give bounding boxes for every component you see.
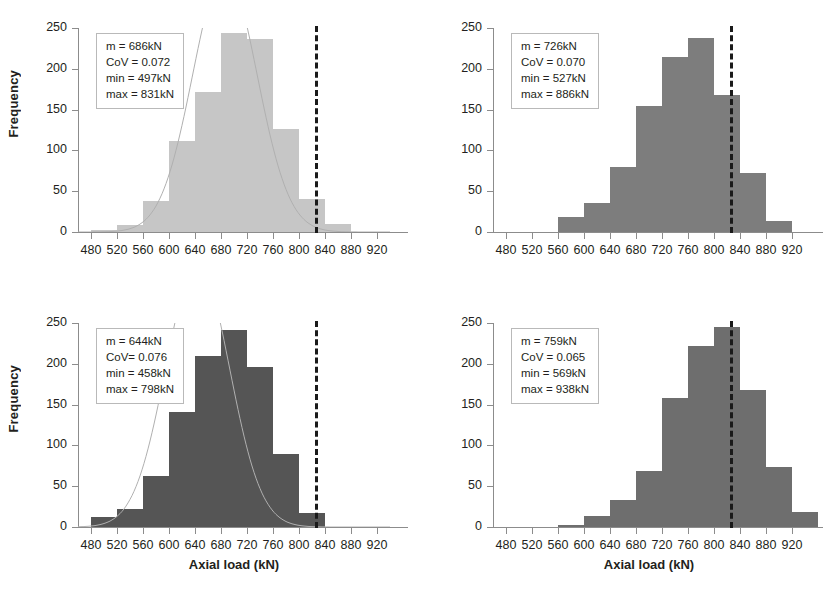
x-tick	[273, 528, 274, 534]
y-tick-label: 250	[46, 20, 72, 34]
x-tick	[688, 528, 689, 534]
x-tick-label: 880	[756, 243, 777, 257]
x-tick	[610, 233, 611, 239]
x-tick	[273, 233, 274, 239]
x-tick-label: 600	[574, 243, 595, 257]
x-tick	[221, 528, 222, 534]
y-tick-label: 250	[461, 20, 487, 34]
stat-mean: m = 686kN	[106, 39, 174, 55]
histogram-bar	[299, 513, 325, 527]
x-tick-label: 640	[185, 243, 206, 257]
x-tick-label: 920	[367, 538, 388, 552]
x-tick-label: 480	[81, 538, 102, 552]
stats-box: m = 759kN CoV = 0.065 min = 569kN max = …	[511, 328, 599, 404]
stat-mean: m = 726kN	[521, 39, 589, 55]
y-tick-label: 50	[468, 183, 487, 197]
y-tick-label: 0	[60, 224, 72, 238]
histogram-bar	[221, 330, 247, 527]
x-axis-title: Axial load (kN)	[78, 557, 390, 572]
histogram-bar	[714, 327, 740, 527]
x-tick-label: 600	[159, 243, 180, 257]
x-tick	[558, 528, 559, 534]
chart-panel-bottom-right: 050100150200250 m = 759kN CoV = 0.065 mi…	[415, 295, 829, 589]
y-tick-label: 100	[46, 142, 72, 156]
x-tick	[299, 233, 300, 239]
histogram-bar	[299, 199, 325, 232]
histogram-figure: Frequency 050100150200250 m = 686kN CoV …	[0, 0, 829, 589]
y-tick-label: 200	[461, 61, 487, 75]
y-tick-label: 200	[461, 356, 487, 370]
x-tick-label: 840	[315, 243, 336, 257]
stat-cov: CoV = 0.065	[521, 350, 589, 366]
x-tick-label: 640	[185, 538, 206, 552]
histogram-bar	[117, 225, 143, 232]
y-tick-label: 50	[53, 183, 72, 197]
x-tick	[558, 233, 559, 239]
x-tick	[740, 528, 741, 534]
x-tick	[662, 233, 663, 239]
x-tick-label: 880	[341, 243, 362, 257]
x-tick-label: 520	[522, 538, 543, 552]
histogram-bar	[688, 38, 714, 232]
x-tick	[325, 233, 326, 239]
y-tick-label: 50	[468, 478, 487, 492]
histogram-bar	[169, 141, 195, 232]
stat-cov: CoV = 0.070	[521, 55, 589, 71]
y-tick-label: 0	[60, 519, 72, 533]
x-tick-label: 520	[522, 243, 543, 257]
stat-max: max = 831kN	[106, 87, 174, 103]
stat-max: max = 798kN	[106, 382, 174, 398]
x-tick	[351, 528, 352, 534]
x-tick-label: 880	[341, 538, 362, 552]
x-tick-label: 720	[237, 243, 258, 257]
histogram-bar	[740, 173, 766, 232]
histogram-bar	[610, 167, 636, 232]
x-tick-label: 680	[211, 538, 232, 552]
x-tick	[117, 233, 118, 239]
threshold-line	[315, 321, 318, 528]
stat-cov: CoV = 0.072	[106, 55, 174, 71]
histogram-bar	[169, 412, 195, 527]
x-tick-label: 800	[704, 243, 725, 257]
chart-panel-bottom-left: Frequency 050100150200250 m = 644kN CoV=…	[0, 295, 414, 589]
x-tick-label: 560	[548, 538, 569, 552]
y-tick-label: 200	[46, 356, 72, 370]
histogram-bar	[688, 346, 714, 527]
x-tick	[117, 528, 118, 534]
stat-min: min = 458kN	[106, 366, 174, 382]
x-tick	[169, 233, 170, 239]
x-tick-label: 800	[289, 243, 310, 257]
x-tick-label: 480	[496, 243, 517, 257]
histogram-bar	[195, 356, 221, 527]
x-tick	[91, 528, 92, 534]
x-tick-label: 760	[263, 538, 284, 552]
y-tick-label: 0	[475, 519, 487, 533]
chart-panel-top-left: Frequency 050100150200250 m = 686kN CoV …	[0, 0, 414, 294]
histogram-bar	[558, 525, 584, 527]
x-tick	[584, 528, 585, 534]
histogram-bar	[766, 221, 792, 232]
x-tick	[740, 233, 741, 239]
x-tick	[195, 528, 196, 534]
histogram-bar	[273, 454, 299, 527]
x-tick	[325, 528, 326, 534]
x-tick-label: 880	[756, 538, 777, 552]
histogram-bar	[792, 512, 818, 527]
histogram-bar	[584, 203, 610, 232]
x-tick	[221, 233, 222, 239]
histogram-bar	[143, 201, 169, 232]
y-axis-title: Frequency	[6, 70, 21, 138]
y-tick-label: 100	[461, 142, 487, 156]
y-tick-label: 150	[46, 397, 72, 411]
histogram-bar	[117, 509, 143, 527]
y-tick: 0	[487, 527, 494, 528]
x-tick	[532, 233, 533, 239]
x-tick	[636, 528, 637, 534]
x-tick-label: 520	[107, 538, 128, 552]
x-tick	[143, 528, 144, 534]
y-tick: 0	[72, 232, 79, 233]
threshold-line	[730, 321, 733, 528]
x-tick	[299, 528, 300, 534]
x-tick-label: 720	[237, 538, 258, 552]
x-tick-label: 840	[315, 538, 336, 552]
